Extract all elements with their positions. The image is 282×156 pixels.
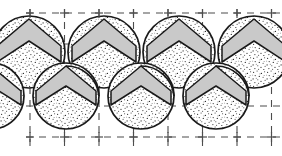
pattern-drawing-canvas xyxy=(0,0,282,156)
pattern-figure: 7 xyxy=(0,0,282,156)
motif-circle-1-3 xyxy=(183,63,249,129)
motif-circle-1-1 xyxy=(33,63,99,129)
motif-circle-1-2 xyxy=(108,63,174,129)
